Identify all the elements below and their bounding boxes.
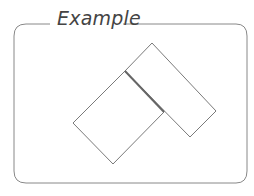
right-rectangle: [125, 43, 216, 137]
figure-title: Example: [57, 6, 141, 30]
shared-edge: [125, 71, 164, 112]
left-rectangle: [73, 71, 164, 164]
frame-border: [14, 24, 247, 183]
